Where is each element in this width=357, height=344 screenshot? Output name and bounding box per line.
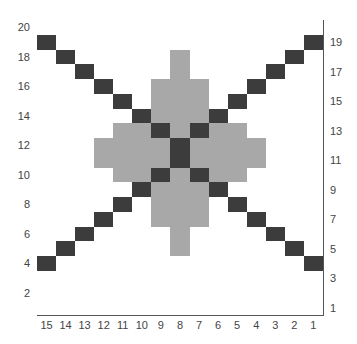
grid-cell-empty [228, 182, 248, 198]
grid-cell-empty [94, 300, 114, 316]
grid-cell-dark [151, 168, 171, 184]
grid-cell-empty [75, 50, 95, 66]
grid-cell-empty [75, 123, 95, 139]
grid-cell-empty [170, 256, 190, 272]
grid-cell-dark [285, 50, 305, 66]
grid-cell-light [170, 123, 190, 139]
grid-cell-empty [209, 227, 229, 243]
grid-cell-empty [190, 20, 210, 36]
grid-cell-light [151, 182, 171, 198]
grid-cell-empty [151, 286, 171, 302]
grid-cell-empty [228, 79, 248, 95]
grid-cell-empty [113, 182, 133, 198]
grid-cell-empty [285, 153, 305, 169]
grid-cell-light [170, 168, 190, 184]
grid-cell-empty [285, 256, 305, 272]
grid-cell-empty [37, 123, 57, 139]
grid-cell-empty [37, 94, 57, 110]
grid-cell-dark [266, 64, 286, 80]
row-label-right: 9 [330, 184, 336, 196]
grid-cell-empty [304, 138, 324, 154]
grid-cell-empty [113, 20, 133, 36]
grid-cell-empty [228, 50, 248, 66]
row-label-left: 8 [6, 198, 30, 210]
grid-cell-empty [304, 300, 324, 316]
grid-cell-empty [228, 20, 248, 36]
grid-cell-empty [285, 20, 305, 36]
grid-cell-empty [304, 197, 324, 213]
grid-cell-dark [190, 123, 210, 139]
row-label-right: 5 [330, 243, 336, 255]
grid-cell-empty [266, 212, 286, 228]
grid-cell-empty [113, 109, 133, 125]
grid-cell-empty [56, 168, 76, 184]
grid-cell-empty [75, 300, 95, 316]
grid-cell-empty [266, 35, 286, 51]
grid-cell-dark [37, 256, 57, 272]
grid-cell-empty [285, 64, 305, 80]
grid-cell-light [132, 123, 152, 139]
grid-cell-empty [247, 182, 267, 198]
grid-cell-empty [151, 20, 171, 36]
grid-cell-empty [304, 153, 324, 169]
grid-cell-empty [170, 20, 190, 36]
grid-cell-empty [132, 197, 152, 213]
grid-cell-empty [75, 168, 95, 184]
grid-cell-empty [266, 20, 286, 36]
grid-cell-empty [247, 94, 267, 110]
grid-cell-empty [56, 64, 76, 80]
grid-cell-dark [170, 138, 190, 154]
grid-cell-empty [37, 197, 57, 213]
grid-cell-empty [285, 109, 305, 125]
grid-cell-empty [132, 64, 152, 80]
grid-cell-empty [56, 20, 76, 36]
row-label-right: 3 [330, 272, 336, 284]
grid-cell-light [190, 94, 210, 110]
grid-cell-dark [132, 109, 152, 125]
grid-cell-empty [170, 300, 190, 316]
grid-cell-empty [266, 138, 286, 154]
grid-cell-dark [75, 64, 95, 80]
grid-cell-light [170, 109, 190, 125]
grid-cell-light [113, 138, 133, 154]
grid-cell-empty [37, 64, 57, 80]
column-label: 4 [247, 319, 266, 331]
grid-cell-empty [75, 212, 95, 228]
grid-cell-empty [209, 35, 229, 51]
grid-cell-empty [151, 64, 171, 80]
grid-cell-empty [37, 227, 57, 243]
grid-cell-empty [228, 64, 248, 80]
grid-cell-empty [209, 64, 229, 80]
grid-cell-empty [56, 138, 76, 154]
grid-cell-light [132, 138, 152, 154]
grid-cell-empty [266, 300, 286, 316]
grid-cell-dark [37, 35, 57, 51]
grid-cell-empty [56, 300, 76, 316]
grid-cell-empty [247, 123, 267, 139]
grid-cell-empty [228, 109, 248, 125]
grid-cell-empty [247, 300, 267, 316]
grid-cell-empty [56, 256, 76, 272]
grid-cell-empty [228, 227, 248, 243]
grid-cell-empty [266, 153, 286, 169]
grid-cell-empty [151, 241, 171, 257]
grid-cell-empty [209, 94, 229, 110]
grid-cell-dark [304, 35, 324, 51]
grid-cell-light [151, 138, 171, 154]
grid-cell-empty [304, 241, 324, 257]
grid-cell-empty [266, 109, 286, 125]
grid-cell-dark [113, 94, 133, 110]
grid-cell-dark [228, 197, 248, 213]
grid-cell-empty [247, 256, 267, 272]
grid-cell-empty [151, 50, 171, 66]
column-label: 5 [228, 319, 247, 331]
row-label-right: 1 [330, 302, 336, 314]
grid-cell-empty [56, 271, 76, 287]
row-label-right: 17 [330, 66, 342, 78]
grid-cell-empty [132, 35, 152, 51]
grid-cell-light [151, 94, 171, 110]
grid-cell-light [228, 123, 248, 139]
grid-cell-empty [209, 212, 229, 228]
grid-cell-empty [37, 109, 57, 125]
grid-cell-empty [37, 300, 57, 316]
